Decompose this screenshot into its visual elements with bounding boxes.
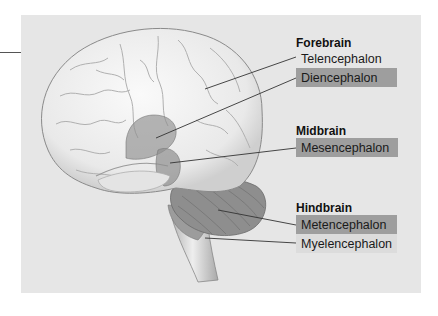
label-telencephalon: Telencephalon [296,49,397,68]
group-title-midbrain: Midbrain [296,124,346,138]
label-diencephalon: Diencephalon [296,68,397,87]
group-title-hindbrain: Hindbrain [296,201,352,215]
label-metencephalon: Metencephalon [296,215,397,234]
cerebrum [41,28,262,193]
group-title-forebrain: Forebrain [296,36,351,50]
brain-illustration [0,0,438,316]
label-myelencephalon: Myelencephalon [296,234,397,253]
label-mesencephalon: Mesencephalon [296,138,398,157]
leader-myelencephalon [205,238,296,243]
